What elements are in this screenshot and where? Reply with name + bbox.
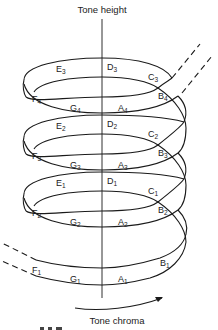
note-label: D2 xyxy=(107,119,118,130)
helix-continuation-top xyxy=(172,44,200,78)
pitch-helix-diagram: Tone height xyxy=(0,0,218,330)
note-label: D3 xyxy=(107,62,118,73)
note-label: G1 xyxy=(70,274,81,285)
note-label: G2 xyxy=(70,217,81,228)
helix-edge xyxy=(34,191,158,206)
note-label: F1 xyxy=(32,265,42,276)
note-label: E3 xyxy=(56,64,66,75)
helix-continuation-bottom xyxy=(2,243,36,260)
note-label: F4 xyxy=(32,94,42,105)
helix-edge xyxy=(34,77,158,92)
note-label: B3 xyxy=(158,148,168,159)
note-label: G3 xyxy=(70,160,81,171)
tone-height-label: Tone height xyxy=(77,4,126,15)
helix-band xyxy=(2,44,212,285)
note-label: C2 xyxy=(148,129,159,140)
note-label: A3 xyxy=(118,160,128,171)
helix-continuation-bottom xyxy=(2,261,36,276)
tone-chroma-label: Tone chroma xyxy=(90,315,146,326)
note-label: D1 xyxy=(107,176,118,187)
note-label: B1 xyxy=(160,258,170,269)
note-label: F2 xyxy=(32,208,42,219)
helix-edge xyxy=(24,198,178,227)
tone-chroma-arrow xyxy=(75,298,162,310)
note-label: C1 xyxy=(148,186,159,197)
note-label: A1 xyxy=(118,274,128,285)
note-label: B2 xyxy=(158,205,168,216)
note-label: G4 xyxy=(70,103,81,114)
helix-edge xyxy=(24,141,178,170)
note-label: E1 xyxy=(56,178,66,189)
note-label: E2 xyxy=(56,121,66,132)
helix-continuation-top xyxy=(182,56,212,93)
note-label: B4 xyxy=(158,91,168,102)
note-label: A2 xyxy=(118,217,128,228)
note-label: A4 xyxy=(118,103,128,114)
helix-edge xyxy=(34,134,158,149)
helix-edge xyxy=(24,84,178,113)
note-label: F3 xyxy=(32,151,42,162)
note-label: C3 xyxy=(148,72,159,83)
